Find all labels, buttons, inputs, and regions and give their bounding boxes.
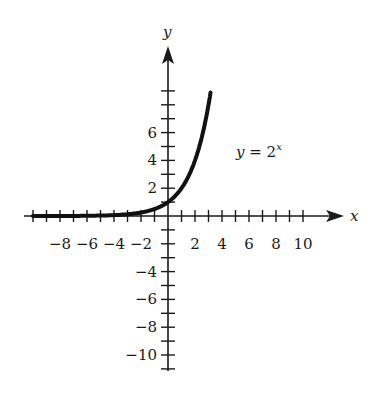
y-axis-label: y [162,23,172,41]
y-tick-label: 6 [147,124,157,142]
y-tick-label: −8 [135,318,157,336]
tick-marks [33,91,303,369]
y-tick-label: 4 [147,151,157,169]
x-axis-label: x [350,207,359,225]
x-tick-label: 10 [293,235,312,253]
x-tick-label: 6 [244,235,254,253]
x-tick-label: −2 [130,235,152,253]
function-label: y = 2x [235,141,282,161]
y-tick-label: −4 [135,263,157,281]
x-tick-label: 4 [217,235,227,253]
x-tick-label: −6 [76,235,98,253]
y-tick-label: −10 [125,346,157,364]
exponential-graph: −8−6−4−2246810246−4−6−8−10 x y y = 2x [0,0,374,393]
x-tick-label: −4 [103,235,125,253]
y-tick-label: 2 [147,179,157,197]
x-tick-label: −8 [49,235,71,253]
y-tick-label: −6 [135,290,157,308]
x-tick-label: 8 [271,235,281,253]
curve-2-pow-x [33,93,211,216]
x-tick-label: 2 [190,235,200,253]
